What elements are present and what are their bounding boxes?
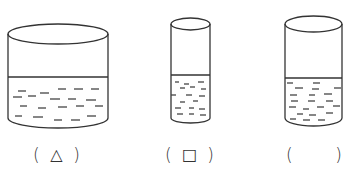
square-mark-icon: □ (182, 147, 197, 163)
cylinder-wide (8, 24, 108, 128)
open-paren: ( (286, 147, 293, 164)
cylinder-top-rim (285, 16, 342, 32)
cylinder-narrow (171, 18, 210, 123)
answer-label-3-blank[interactable]: ( ) (286, 143, 342, 167)
answer-label-2: ( □ ) (165, 143, 214, 167)
close-paren: ) (73, 147, 80, 164)
triangle-mark-icon: △ (50, 147, 62, 163)
cylinder-top-rim (8, 24, 108, 44)
open-paren: ( (165, 147, 172, 164)
close-paren: ) (335, 147, 342, 164)
cylinder-top-rim (171, 18, 210, 30)
open-paren: ( (33, 147, 40, 164)
close-paren: ) (207, 147, 214, 164)
cylinder-medium (285, 16, 342, 126)
cylinder-bottom-arc (171, 118, 210, 123)
answer-label-1: ( △ ) (33, 143, 80, 167)
